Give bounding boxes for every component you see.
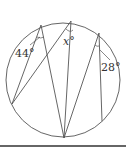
chords (12, 21, 102, 138)
angle-label-x: x° (63, 35, 75, 48)
circle-diagram: 44° x° 28° (0, 0, 126, 151)
angle-label-44: 44° (15, 47, 35, 60)
angle-label-28: 28° (101, 61, 121, 74)
